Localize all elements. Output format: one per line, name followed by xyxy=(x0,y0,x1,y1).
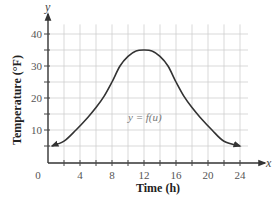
axes xyxy=(48,14,265,163)
y-axis-variable: y xyxy=(44,0,51,14)
y-tick-label: 10 xyxy=(31,124,43,136)
y-tick-label: 40 xyxy=(31,28,43,40)
x-tick-label: 16 xyxy=(171,169,183,181)
function-label: y = f(u) xyxy=(127,111,162,124)
x-tick-label: 12 xyxy=(139,169,150,181)
x-axis-label: Time (h) xyxy=(136,181,180,195)
x-tick-label: 4 xyxy=(77,169,83,181)
y-tick-label: 20 xyxy=(31,92,43,104)
x-tick-label: 24 xyxy=(235,169,247,181)
x-axis-variable: x xyxy=(265,156,272,170)
grid xyxy=(48,24,248,162)
x-tick-label: 0 xyxy=(35,169,41,181)
x-tick-label: 20 xyxy=(203,169,215,181)
chart: 0481216202410203040 y = f(u) x y Time (h… xyxy=(0,0,280,203)
x-tick-label: 8 xyxy=(109,169,115,181)
y-tick-label: 30 xyxy=(31,60,43,72)
y-axis-label: Temperature (°F) xyxy=(10,55,24,145)
